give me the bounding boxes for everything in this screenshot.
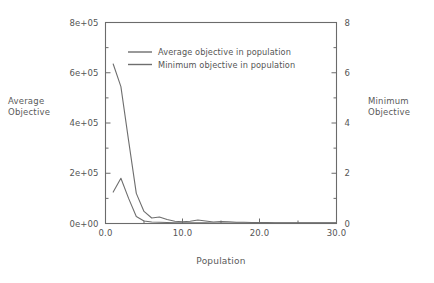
- tick-label: 4e+05: [69, 118, 98, 128]
- tick-label: 0e+00: [69, 219, 98, 229]
- tick-label: 20.0: [250, 228, 269, 238]
- y-axis-ticklabels-left: 0e+002e+054e+056e+058e+05: [69, 18, 98, 229]
- y-axis-ticks-left: [106, 23, 111, 224]
- legend-label: Average objective in population: [158, 47, 291, 57]
- tick-label: 8e+05: [69, 18, 98, 28]
- tick-label: 8: [345, 18, 351, 28]
- series-line-minimum: [113, 178, 336, 223]
- chart-legend: Average objective in populationMinimum o…: [128, 47, 295, 70]
- tick-label: 2e+05: [69, 168, 98, 178]
- tick-label: 6e+05: [69, 68, 98, 78]
- y-axis-ticks-right: [332, 23, 337, 224]
- tick-label: 4: [345, 118, 351, 128]
- tick-label: 0.0: [99, 228, 113, 238]
- legend-label: Minimum objective in population: [158, 60, 295, 70]
- data-series-group: [113, 64, 336, 223]
- chart-figure: Average Objective Minimum Objective Popu…: [0, 0, 434, 283]
- plot-area: 0e+002e+054e+056e+058e+05 02468 0.010.02…: [0, 0, 434, 283]
- tick-label: 30.0: [327, 228, 346, 238]
- x-axis-ticklabels: 0.010.020.030.0: [99, 228, 347, 238]
- tick-label: 10.0: [173, 228, 192, 238]
- series-line-average: [113, 64, 336, 223]
- tick-label: 2: [345, 168, 351, 178]
- y-axis-ticklabels-right: 02468: [345, 18, 351, 229]
- tick-label: 6: [345, 68, 351, 78]
